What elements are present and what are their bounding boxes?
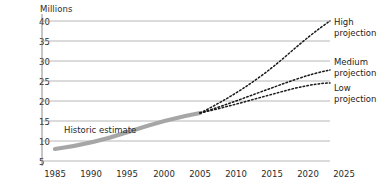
series-high-projection: [200, 21, 330, 113]
legend-high-line1: High: [334, 17, 354, 27]
plot-area: [0, 0, 385, 191]
x-tick-2000: 2000: [153, 170, 175, 179]
x-tick-1995: 1995: [116, 170, 138, 179]
series-medium-projection: [200, 70, 330, 113]
series-low-projection: [200, 83, 330, 113]
gridlines: [42, 21, 330, 161]
x-tick-2020: 2020: [297, 170, 319, 179]
legend-label-medium-projection: Medium projection: [334, 57, 376, 78]
historic-estimate-annotation: Historic estimate: [64, 126, 136, 135]
legend-medium-line2: projection: [334, 68, 376, 78]
legend-medium-line1: Medium: [334, 57, 368, 67]
population-projection-chart: Millions 40 35 30 25 20 15 10 5 Histor: [0, 0, 385, 191]
x-tick-2025: 2025: [333, 170, 355, 179]
x-tick-2005: 2005: [189, 170, 211, 179]
legend-low-line2: projection: [334, 94, 376, 104]
legend-high-line2: projection: [334, 28, 376, 38]
x-tick-1985: 1985: [44, 170, 66, 179]
x-tick-1990: 1990: [80, 170, 102, 179]
legend-label-high-projection: High projection: [334, 17, 376, 38]
legend-label-low-projection: Low projection: [334, 83, 376, 104]
legend-low-line1: Low: [334, 83, 351, 93]
x-tick-2010: 2010: [225, 170, 247, 179]
x-tick-2015: 2015: [261, 170, 283, 179]
